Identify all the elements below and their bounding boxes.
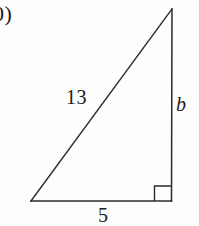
triangle-figure: 0) 13 b 5 [0, 0, 199, 226]
base-leg-length-label: 5 [98, 205, 108, 225]
triangle-vertical-side [172, 9, 173, 201]
triangle-hypotenuse-side [31, 9, 172, 201]
hypotenuse-length-label: 13 [66, 87, 87, 107]
triangle-drawing [0, 0, 199, 226]
vertical-leg-label: b [176, 94, 186, 114]
right-angle-marker-icon [155, 186, 172, 201]
problem-number-label: 0) [0, 3, 12, 25]
